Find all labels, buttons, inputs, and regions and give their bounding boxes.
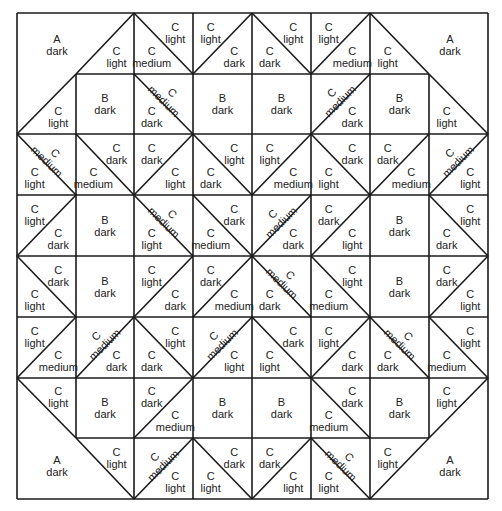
patch-letter: C xyxy=(148,45,156,57)
patch-shade: dark xyxy=(46,466,68,478)
patch-shade: dark xyxy=(141,397,163,409)
patch-shade: light xyxy=(201,482,221,494)
patch-shade: dark xyxy=(259,300,281,312)
patch-C-light-r0c3-tl: Clight xyxy=(201,21,221,45)
patch-letter: C xyxy=(384,45,392,57)
patch-C-light-r4c0-bl: Clight xyxy=(25,288,45,312)
patch-shade: dark xyxy=(48,239,70,251)
patch-letter: C xyxy=(443,349,451,361)
patch-shade: light xyxy=(25,337,45,349)
patch-C-light-r3c7-tr: Clight xyxy=(460,203,480,227)
patch-letter: C xyxy=(266,142,274,154)
patch-shade: dark xyxy=(283,239,305,251)
patch-shade: dark xyxy=(389,408,411,420)
patch-shade: light xyxy=(283,33,303,45)
patch-C-light-r1c0-br: Clight xyxy=(48,105,68,129)
patch-letter: C xyxy=(31,203,39,215)
patch-shade: dark xyxy=(389,226,411,238)
patch-B-r4c6: Bdark xyxy=(389,275,411,299)
patch-letter: B xyxy=(396,214,403,226)
patch-shade: light xyxy=(165,33,185,45)
patch-C-light-r7c6-tl: Clight xyxy=(378,446,398,470)
patch-letter: B xyxy=(396,396,403,408)
patch-shade: light xyxy=(260,361,280,373)
patch-letter: C xyxy=(348,227,356,239)
patch-C-dark-r3c7-bl: Cdark xyxy=(436,227,458,251)
patch-shade: dark xyxy=(259,57,281,69)
patch-letter: C xyxy=(443,264,451,276)
patch-C-light-r6c0-tr: Clight xyxy=(48,385,68,409)
patch-letter: C xyxy=(325,470,333,482)
patch-shade: light xyxy=(165,337,185,349)
patch-shade: light xyxy=(460,215,480,227)
patch-shade: dark xyxy=(141,117,163,129)
patch-C-light-r5c4-bl: Clight xyxy=(260,349,280,373)
patch-letter: C xyxy=(54,385,62,397)
patch-C-dark-r2c6-tl: Cdark xyxy=(377,142,399,166)
patch-C-light-r7c1-tr: Clight xyxy=(107,446,127,470)
patch-C-light-r7c3-bl: Clight xyxy=(201,470,221,494)
patch-C-light-r5c7-tr: Clight xyxy=(460,325,480,349)
patch-letter: C xyxy=(384,349,392,361)
patch-C-dark-r4c0-tr: Cdark xyxy=(48,264,70,288)
patch-C-light-r7c2-br: Clight xyxy=(165,470,185,494)
patch-shade: light xyxy=(460,337,480,349)
patch-letter: C xyxy=(171,166,179,178)
patch-shade: light xyxy=(107,458,127,470)
patch-C-dark-r5c5-br: Cdark xyxy=(342,349,364,373)
patch-shade: light xyxy=(378,458,398,470)
corner-bottom-right-patch-A: Adark xyxy=(439,454,461,478)
patch-letter: C xyxy=(31,325,39,337)
patch-C-light-r2c5-bl: Clight xyxy=(319,166,339,190)
patch-shade: light xyxy=(319,178,339,190)
patch-C-dark-r5c2-bl: Cdark xyxy=(141,349,163,373)
patch-letter: C xyxy=(207,166,215,178)
patch-B-r6c6: Bdark xyxy=(389,396,411,420)
patch-B-r1c3: Bdark xyxy=(212,92,234,116)
patch-letter: C xyxy=(289,470,297,482)
patch-letter: B xyxy=(278,92,285,104)
patch-shade: dark xyxy=(342,397,364,409)
patch-letter: C xyxy=(443,385,451,397)
patch-shade: medium xyxy=(132,57,171,69)
patch-C-dark-r0c3-br: Cdark xyxy=(224,45,246,69)
patch-C-dark-r3c3-tr: Cdark xyxy=(224,203,246,227)
patch-shade: dark xyxy=(141,154,163,166)
patch-shade: light xyxy=(460,178,480,190)
patch-letter: C xyxy=(266,349,274,361)
patch-letter: C xyxy=(171,409,179,421)
patch-shade: dark xyxy=(389,104,411,116)
patch-letter: C xyxy=(325,21,333,33)
patch-C-medium-r6c2-br: Cmedium xyxy=(156,409,195,433)
patch-shade: dark xyxy=(200,178,222,190)
patch-letter: C xyxy=(31,166,39,178)
patch-letter: C xyxy=(207,227,215,239)
patch-letter: C xyxy=(348,105,356,117)
patch-letter: C xyxy=(443,105,451,117)
patch-letter: A xyxy=(53,33,61,45)
patch-B-r6c4: Bdark xyxy=(271,396,293,420)
patch-letter: A xyxy=(53,454,61,466)
patch-letter: C xyxy=(325,288,333,300)
patch-C-medium-r2c1-bl: Cmedium xyxy=(74,166,113,190)
patch-C-dark-r6c2-tl: Cdark xyxy=(141,385,163,409)
patch-shade: dark xyxy=(259,458,281,470)
patch-shade: dark xyxy=(389,287,411,299)
patch-letter: A xyxy=(446,454,454,466)
patch-shade: dark xyxy=(212,104,234,116)
patch-C-dark-r6c5-tr: Cdark xyxy=(342,385,364,409)
patch-C-dark-r7c3-tr: Cdark xyxy=(224,446,246,470)
patch-B-r1c4: Bdark xyxy=(271,92,293,116)
patch-shade: light xyxy=(107,57,127,69)
patch-shade: light xyxy=(201,33,221,45)
patch-C-dark-r2c1-tr: Cdark xyxy=(106,142,128,166)
patch-shade: medium xyxy=(215,300,254,312)
patch-letter: B xyxy=(101,214,108,226)
patch-shade: light xyxy=(342,276,362,288)
patch-shade: dark xyxy=(94,104,116,116)
patch-shade: light xyxy=(224,154,244,166)
patch-letter: C xyxy=(31,288,39,300)
patch-shade: light xyxy=(319,337,339,349)
patch-shade: dark xyxy=(271,104,293,116)
patch-letter: C xyxy=(54,227,62,239)
